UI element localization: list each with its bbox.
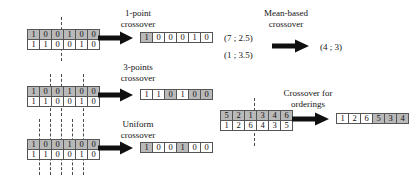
table-row: 1 0 0 1 0 0 [28, 140, 100, 150]
mean-based-crossover-label-line2: crossover [238, 19, 334, 30]
table-row: 1 0 0 1 0 0 [28, 30, 100, 40]
bit-cell: 1 [28, 40, 40, 50]
orderings-crossover-label-line1: Crossover for [256, 88, 360, 99]
orderings-crossover-label: Crossover for orderings [256, 88, 360, 109]
gene-cell: 2 [349, 114, 361, 124]
table-row: 1 0 0 1 0 0 [28, 87, 100, 97]
bit-cell: 1 [141, 90, 153, 100]
bit-cell: 1 [189, 33, 201, 43]
gene-cell: 5 [373, 114, 385, 124]
bit-cell: 0 [64, 97, 76, 107]
table-row: 1 1 0 0 1 0 [28, 40, 100, 50]
bit-cell: 1 [177, 90, 189, 100]
table-row: 1 2 6 4 3 5 [221, 121, 293, 131]
gene-cell: 1 [337, 114, 349, 124]
bit-cell: 0 [40, 87, 52, 97]
bit-cell: 0 [40, 30, 52, 40]
gene-cell: 3 [257, 111, 269, 121]
mean-based-result-value: (4 ; 3) [320, 42, 342, 52]
bit-cell: 0 [40, 140, 52, 150]
bit-cell: 1 [64, 140, 76, 150]
gene-cell: 5 [281, 121, 293, 131]
bit-cell: 0 [76, 140, 88, 150]
uniform-crossover-label-line1: Uniform [96, 119, 180, 130]
bit-cell: 1 [40, 97, 52, 107]
one-point-crossover-label-line1: 1-point [96, 8, 180, 19]
bit-cell: 1 [141, 33, 153, 43]
table-row: 1 0 0 0 1 0 [141, 33, 213, 43]
gene-cell: 1 [245, 111, 257, 121]
three-points-crossover-label: 3-points crossover [96, 62, 180, 83]
bit-cell: 1 [153, 90, 165, 100]
table-row: 1 0 0 1 0 0 [141, 143, 213, 153]
bit-cell: 0 [52, 30, 64, 40]
gene-cell: 3 [269, 121, 281, 131]
right-arrow-icon [272, 39, 310, 53]
right-arrow-icon [98, 31, 134, 45]
mean-based-parent1-value: (7 ; 2.5) [224, 33, 253, 43]
bit-cell: 0 [52, 87, 64, 97]
mean-based-crossover-label: Mean-based crossover [238, 8, 334, 29]
bit-cell: 1 [141, 143, 153, 153]
bit-cell: 0 [76, 30, 88, 40]
gene-cell: 6 [245, 121, 257, 131]
three-points-crossover-label-line1: 3-points [96, 62, 180, 73]
right-arrow-icon [98, 88, 134, 102]
bit-cell: 1 [28, 140, 40, 150]
one-point-crossover-label-line2: crossover [96, 19, 180, 30]
bit-cell: 1 [76, 40, 88, 50]
bit-cell: 0 [165, 33, 177, 43]
gene-cell: 1 [221, 121, 233, 131]
bit-cell: 1 [40, 40, 52, 50]
bit-cell: 0 [189, 143, 201, 153]
bit-cell: 0 [153, 143, 165, 153]
three-points-crossover-label-line2: crossover [96, 73, 180, 84]
table-row: 1 2 6 5 3 4 [337, 114, 409, 124]
bit-cell: 0 [165, 143, 177, 153]
mean-based-parent2-value: (1 ; 3.5) [224, 50, 253, 60]
gene-cell: 6 [361, 114, 373, 124]
right-arrow-icon [98, 141, 134, 155]
gene-cell: 6 [281, 111, 293, 121]
table-row: 1 1 0 0 1 0 [28, 97, 100, 107]
table-row: 1 1 0 0 1 0 [28, 150, 100, 160]
bit-cell: 1 [28, 87, 40, 97]
bit-cell: 1 [76, 150, 88, 160]
bit-cell: 0 [201, 90, 213, 100]
orderings-crossover-label-line2: orderings [256, 99, 360, 110]
gene-cell: 4 [257, 121, 269, 131]
orderings-result-table: 1 2 6 5 3 4 [336, 113, 409, 124]
bit-cell: 0 [52, 97, 64, 107]
three-points-parents-table: 1 0 0 1 0 0 1 1 0 0 1 0 [27, 86, 100, 107]
bit-cell: 1 [64, 87, 76, 97]
bit-cell: 1 [76, 97, 88, 107]
bit-cell: 1 [28, 30, 40, 40]
gene-cell: 4 [269, 111, 281, 121]
bit-cell: 0 [64, 40, 76, 50]
bit-cell: 0 [177, 33, 189, 43]
gene-cell: 2 [233, 111, 245, 121]
gene-cell: 5 [221, 111, 233, 121]
uniform-parents-table: 1 0 0 1 0 0 1 1 0 0 1 0 [27, 139, 100, 160]
orderings-parents-table: 5 2 1 3 4 6 1 2 6 4 3 5 [220, 110, 293, 131]
bit-cell: 0 [153, 33, 165, 43]
bit-cell: 0 [189, 90, 201, 100]
table-row: 5 2 1 3 4 6 [221, 111, 293, 121]
bit-cell: 0 [201, 33, 213, 43]
bit-cell: 0 [76, 87, 88, 97]
bit-cell: 0 [52, 40, 64, 50]
bit-cell: 0 [165, 90, 177, 100]
bit-cell: 0 [64, 150, 76, 160]
one-point-crossover-label: 1-point crossover [96, 8, 180, 29]
bit-cell: 1 [28, 97, 40, 107]
one-point-parents-table: 1 0 0 1 0 0 1 1 0 0 1 0 [27, 29, 100, 50]
three-points-result-table: 1 1 0 1 0 0 [140, 89, 213, 100]
gene-cell: 3 [385, 114, 397, 124]
uniform-crossover-label: Uniform crossover [96, 119, 180, 140]
bit-cell: 1 [177, 143, 189, 153]
crossover-operators-figure: 1-point crossover 1 0 0 1 0 0 1 1 0 0 1 … [0, 0, 416, 191]
gene-cell: 2 [233, 121, 245, 131]
mean-based-crossover-label-line1: Mean-based [238, 8, 334, 19]
bit-cell: 1 [64, 30, 76, 40]
bit-cell: 1 [40, 150, 52, 160]
